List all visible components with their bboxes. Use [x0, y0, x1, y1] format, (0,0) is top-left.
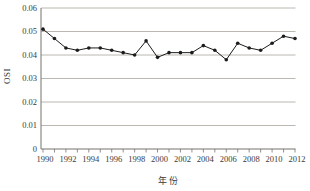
data-point-1990 [41, 27, 45, 31]
x-axis-title: 年份 [43, 174, 295, 187]
data-point-1998 [133, 53, 137, 57]
data-point-2005 [213, 49, 217, 53]
data-point-1997 [121, 51, 125, 55]
data-point-2011 [282, 34, 286, 38]
y-axis-tick-label: 0.02 [22, 97, 37, 107]
data-point-2002 [179, 51, 183, 55]
x-axis-tick-label: 2010 [266, 154, 283, 164]
data-point-2006 [224, 58, 228, 62]
y-axis-title: OSI [2, 51, 12, 101]
y-axis-tick-label: 0.05 [22, 26, 37, 36]
x-axis-tick-label: 1992 [59, 154, 76, 164]
osi-trend-line-chart: 00.010.020.030.040.050.06199019921994199… [0, 0, 310, 191]
x-axis-tick-label: 1998 [128, 154, 145, 164]
data-point-1992 [64, 46, 68, 50]
data-point-2007 [236, 41, 240, 45]
y-axis-tick-label: 0.04 [22, 50, 38, 60]
data-point-1991 [53, 37, 57, 41]
data-point-1995 [98, 46, 102, 50]
x-axis-tick-label: 2012 [289, 154, 306, 164]
data-point-2009 [259, 49, 263, 53]
y-axis-tick-label: 0.01 [22, 120, 37, 130]
y-axis-tick-label: 0.06 [22, 3, 37, 13]
data-point-2003 [190, 51, 194, 55]
x-axis-tick-label: 2000 [151, 154, 168, 164]
x-axis-tick-label: 2002 [174, 154, 191, 164]
data-point-2010 [270, 41, 274, 45]
x-axis-tick-label: 1990 [37, 154, 54, 164]
data-point-2000 [156, 56, 160, 60]
x-axis-tick-label: 1994 [82, 154, 100, 164]
y-axis-tick-label: 0.03 [22, 73, 37, 83]
chart-plot-area: 00.010.020.030.040.050.06199019921994199… [0, 0, 310, 191]
data-point-1996 [110, 49, 114, 53]
data-point-2001 [167, 51, 171, 55]
x-axis-tick-label: 2008 [243, 154, 260, 164]
data-point-2004 [202, 44, 206, 48]
y-axis-tick-label: 0 [33, 144, 37, 154]
x-axis-tick-label: 2006 [220, 154, 237, 164]
x-axis-tick-label: 2004 [197, 154, 215, 164]
x-axis-tick-label: 1996 [105, 154, 122, 164]
data-point-1993 [76, 49, 80, 53]
data-point-2008 [247, 46, 251, 50]
data-point-1999 [144, 39, 148, 43]
data-point-1994 [87, 46, 91, 50]
data-point-2012 [293, 37, 297, 41]
